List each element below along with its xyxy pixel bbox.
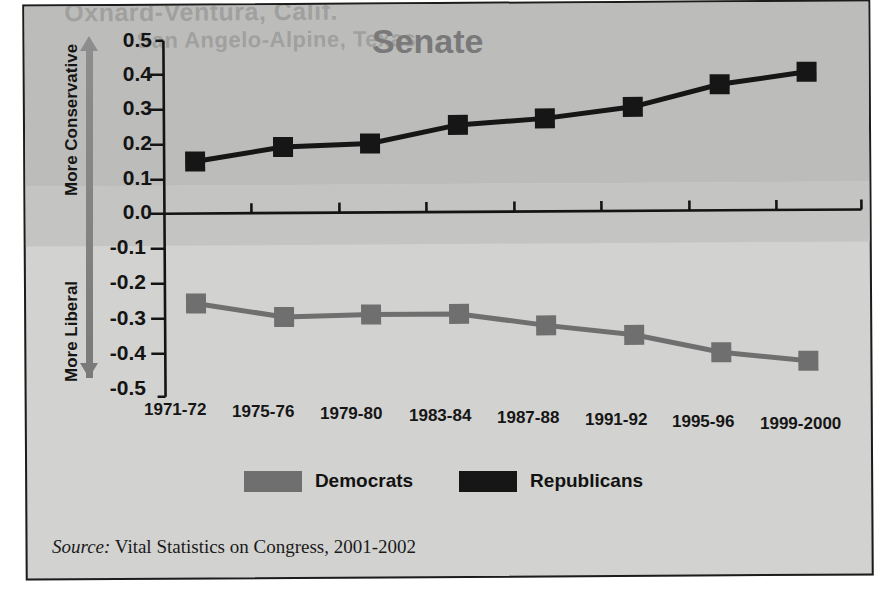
legend-item-democrats: Democrats [244, 470, 413, 492]
legend-item-republicans: Republicans [459, 470, 643, 492]
legend-label-republicans: Republicans [530, 470, 643, 492]
legend-swatch-republicans [459, 471, 517, 492]
x-tick-7: 1999-2000 [760, 414, 841, 434]
x-tick-2: 1979-80 [320, 404, 382, 424]
x-tick-6: 1995-96 [672, 412, 734, 432]
x-tick-3: 1983-84 [409, 406, 471, 426]
x-tick-5: 1991-92 [585, 410, 647, 430]
x-tick-1: 1975-76 [232, 402, 294, 422]
legend-swatch-democrats [244, 471, 302, 492]
x-tick-0: 1971-72 [144, 400, 206, 420]
legend-label-democrats: Democrats [315, 470, 413, 492]
x-tick-4: 1987-88 [497, 408, 559, 428]
source-citation: Vital Statistics on Congress, 2001-2002 [110, 536, 416, 557]
scanned-page: Oxnard-Ventura, Calif. San Angelo-Alpine… [0, 0, 887, 604]
plot-canvas [0, 0, 887, 604]
chart: Senate More Conservative More Liberal 0.… [0, 0, 887, 604]
chart-legend: Democrats Republicans [0, 470, 887, 492]
series-markers-republicans [185, 62, 818, 172]
source-note: Source: Vital Statistics on Congress, 20… [52, 536, 416, 558]
series-markers-democrats [186, 290, 818, 375]
source-label: Source: [52, 536, 110, 557]
